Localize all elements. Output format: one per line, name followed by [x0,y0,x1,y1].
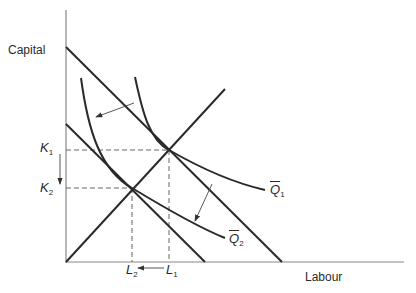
isocost-lower [66,124,205,262]
l1-label: L1 [166,262,178,279]
isoquant-q1 [135,77,265,190]
k1-sub: 1 [49,148,53,157]
k1-label: K1 [40,140,53,157]
q1-label: Q1 [270,182,285,199]
isocost-upper [66,47,282,262]
q2-label: Q2 [229,231,244,248]
q1-letter: Q [270,182,280,197]
k2-letter: K [40,180,49,195]
isoquant-diagram [0,0,416,293]
q1-sub: 1 [280,190,284,199]
isoquant-q2 [81,78,225,238]
l2-sub: 2 [133,270,137,279]
k2-label: K2 [40,180,53,197]
l2-label: L2 [126,262,138,279]
q2-sub: 2 [239,239,243,248]
y-axis-label: Capital [8,43,45,57]
q2-letter: Q [229,231,239,246]
shift-arrow-lower [195,184,212,221]
x-axis-label: Labour [305,270,342,284]
k2-sub: 2 [49,188,53,197]
l1-sub: 1 [173,270,177,279]
k1-letter: K [40,140,49,155]
